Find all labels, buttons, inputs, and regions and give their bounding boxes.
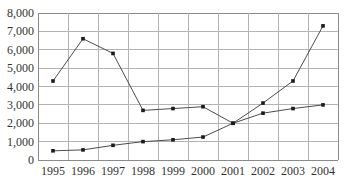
data-point-marker — [291, 107, 295, 111]
y-axis-tick-label: 3,000 — [7, 98, 34, 112]
data-point-marker — [111, 52, 115, 56]
x-axis-tick-label: 2002 — [251, 164, 275, 178]
y-axis-tick-label: 5,000 — [7, 61, 34, 75]
x-axis-tick-label: 1995 — [41, 164, 65, 178]
x-axis-tick-label: 1999 — [161, 164, 185, 178]
data-point-marker — [51, 149, 55, 153]
y-axis-tick-label: 0 — [28, 153, 34, 167]
data-point-marker — [81, 148, 85, 152]
line-chart: 01,0002,0003,0004,0005,0006,0007,0008,00… — [0, 0, 347, 188]
data-point-marker — [261, 111, 265, 115]
y-axis-tick-label: 4,000 — [7, 80, 34, 94]
data-point-marker — [141, 109, 145, 113]
x-axis-tick-label: 1997 — [101, 164, 125, 178]
x-axis-tick-label: 1998 — [131, 164, 155, 178]
data-point-marker — [201, 105, 205, 109]
data-point-marker — [51, 79, 55, 83]
x-axis-tick-label: 2000 — [191, 164, 215, 178]
y-axis-tick-label: 2,000 — [7, 116, 34, 130]
data-point-marker — [171, 107, 175, 111]
x-axis-tick-label: 2001 — [221, 164, 245, 178]
y-axis-tick-label: 8,000 — [7, 6, 34, 20]
data-point-marker — [231, 121, 235, 125]
y-axis-tick-label: 7,000 — [7, 24, 34, 38]
data-point-marker — [261, 101, 265, 105]
data-point-marker — [201, 135, 205, 139]
line-chart-canvas: 01,0002,0003,0004,0005,0006,0007,0008,00… — [0, 0, 347, 188]
data-point-marker — [171, 138, 175, 142]
data-point-marker — [321, 24, 325, 28]
data-point-marker — [111, 144, 115, 148]
x-axis-tick-label: 2003 — [281, 164, 305, 178]
y-axis-tick-label: 1,000 — [7, 135, 34, 149]
x-axis-tick-label: 2004 — [311, 164, 335, 178]
data-point-marker — [141, 140, 145, 144]
data-point-marker — [291, 79, 295, 83]
y-axis-tick-label: 6,000 — [7, 43, 34, 57]
x-axis-tick-label: 1996 — [71, 164, 95, 178]
data-point-marker — [81, 37, 85, 41]
data-point-marker — [321, 103, 325, 107]
